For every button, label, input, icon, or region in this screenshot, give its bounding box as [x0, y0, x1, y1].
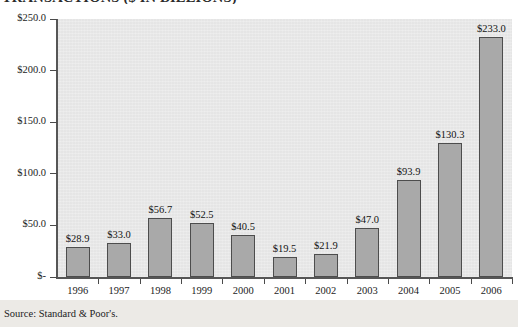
- bar: [314, 254, 338, 277]
- x-axis-label: 2000: [222, 285, 264, 296]
- x-axis-label: 2001: [264, 285, 306, 296]
- bar: [148, 218, 172, 277]
- x-axis-label: 2004: [388, 285, 430, 296]
- x-axis-label: 2002: [305, 285, 347, 296]
- bar-value-label: $33.0: [93, 229, 145, 240]
- x-axis-label: 1996: [57, 285, 99, 296]
- bar: [66, 247, 90, 277]
- y-axis-tick: [50, 70, 57, 71]
- bar: [190, 223, 214, 277]
- y-axis-label: $-: [0, 270, 46, 281]
- bar: [273, 257, 297, 277]
- y-axis-tick: [50, 277, 57, 278]
- bar: [479, 37, 503, 277]
- x-axis-tick: [305, 279, 306, 284]
- bar: [107, 243, 131, 277]
- chart-plot: $250.0$200.0$150.0$100.0$50.0$- 19961997…: [0, 0, 518, 300]
- x-axis-label: 2003: [346, 285, 388, 296]
- bar: [231, 235, 255, 277]
- bar-value-label: $21.9: [300, 240, 352, 251]
- x-axis-tick: [429, 279, 430, 284]
- y-axis-label: $100.0: [0, 167, 46, 178]
- bar: [355, 228, 379, 277]
- x-axis-tick: [264, 279, 265, 284]
- y-axis-label: $50.0: [0, 218, 46, 229]
- x-axis-label: 2006: [470, 285, 512, 296]
- bar-value-label: $40.5: [217, 221, 269, 232]
- x-axis-tick: [388, 279, 389, 284]
- x-axis-tick: [471, 279, 472, 284]
- bar-value-label: $93.9: [383, 166, 435, 177]
- bar-value-label: $130.3: [424, 129, 476, 140]
- source-note: Source: Standard & Poor's.: [4, 308, 118, 319]
- x-axis-tick: [181, 279, 182, 284]
- y-axis-label: $200.0: [0, 64, 46, 75]
- y-axis-tick: [50, 19, 57, 20]
- x-axis-label: 1998: [139, 285, 181, 296]
- y-axis-label: $250.0: [0, 12, 46, 23]
- x-axis-tick: [347, 279, 348, 284]
- bar: [438, 143, 462, 277]
- x-axis-label: 1999: [181, 285, 223, 296]
- y-axis-tick: [50, 173, 57, 174]
- x-axis-tick: [140, 279, 141, 284]
- x-axis-label: 2005: [429, 285, 471, 296]
- y-axis-tick: [50, 122, 57, 123]
- x-axis-tick: [222, 279, 223, 284]
- x-axis-line: [56, 277, 513, 279]
- bar-value-label: $233.0: [465, 23, 517, 34]
- bar-value-label: $52.5: [176, 209, 228, 220]
- y-axis-tick: [50, 225, 57, 226]
- bar: [397, 180, 421, 277]
- x-axis-tick: [512, 279, 513, 284]
- x-axis-label: 1997: [98, 285, 140, 296]
- x-axis-tick: [98, 279, 99, 284]
- bar-value-label: $47.0: [341, 214, 393, 225]
- y-axis-label: $150.0: [0, 115, 46, 126]
